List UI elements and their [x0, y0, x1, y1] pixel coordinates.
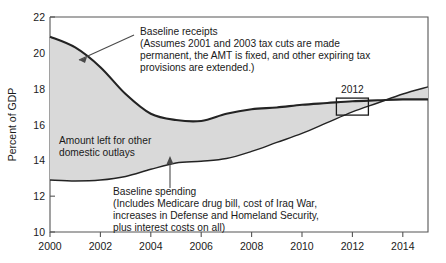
annotation-line: permanent, the AMT is fixed, and other e… — [140, 50, 370, 61]
annotation-line: plus interest costs on all) — [113, 222, 225, 233]
x-axis-tick-labels: 2000 2002 2004 2006 2008 2010 2012 2014 — [38, 240, 414, 252]
chart-svg: 10 12 14 16 18 20 22 Percent of GDP 2000… — [0, 0, 446, 263]
x-tick-label: 2012 — [341, 240, 365, 252]
annotation-line: (Assumes 2001 and 2003 tax cuts are made — [140, 38, 340, 49]
y-tick-label: 20 — [33, 47, 45, 59]
y-tick-label: 22 — [33, 11, 45, 23]
y-tick-label: 18 — [33, 83, 45, 95]
annotation-line: Amount left for other — [59, 135, 152, 146]
x-tick-label: 2014 — [391, 240, 415, 252]
annotation-line: provisions are extended.) — [140, 62, 254, 73]
y-tick-label: 10 — [33, 226, 45, 238]
annotation-line: increases in Defense and Homeland Securi… — [113, 210, 319, 221]
y-tick-label: 14 — [33, 154, 45, 166]
annotation-line: (Includes Medicare drug bill, cost of Ir… — [113, 198, 317, 209]
x-tick-label: 2008 — [240, 240, 264, 252]
y-axis-tick-labels: 10 12 14 16 18 20 22 — [33, 11, 45, 238]
annotation-baseline-spending: Baseline spending (Includes Medicare dru… — [113, 186, 319, 233]
x-tick-label: 2000 — [38, 240, 62, 252]
x-tick-label: 2002 — [89, 240, 113, 252]
x-tick-label: 2004 — [139, 240, 163, 252]
crossover-callout-label: 2012 — [341, 84, 364, 95]
annotation-line: domestic outlays — [59, 147, 135, 158]
x-axis-ticks — [50, 232, 403, 237]
y-axis-title: Percent of GDP — [6, 88, 18, 162]
annotation-line: Baseline receipts — [140, 26, 218, 37]
x-tick-label: 2010 — [290, 240, 314, 252]
annotation-line: Baseline spending — [113, 186, 197, 197]
x-tick-label: 2006 — [190, 240, 214, 252]
chart-container: 10 12 14 16 18 20 22 Percent of GDP 2000… — [0, 0, 446, 263]
y-tick-label: 16 — [33, 119, 45, 131]
annotation-baseline-receipts: Baseline receipts (Assumes 2001 and 2003… — [140, 26, 370, 73]
y-tick-label: 12 — [33, 190, 45, 202]
